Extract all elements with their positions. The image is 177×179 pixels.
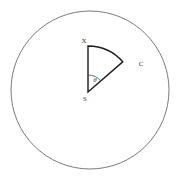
angle-label-theta: θ — [93, 76, 97, 84]
figure-canvas: X C S θ — [0, 0, 177, 179]
vertex-label-s: S — [83, 95, 87, 103]
sector-outline — [88, 46, 123, 92]
vertex-label-x: X — [81, 37, 86, 45]
geometry-diagram: X C S θ — [0, 0, 177, 179]
vertex-label-c: C — [139, 60, 144, 68]
